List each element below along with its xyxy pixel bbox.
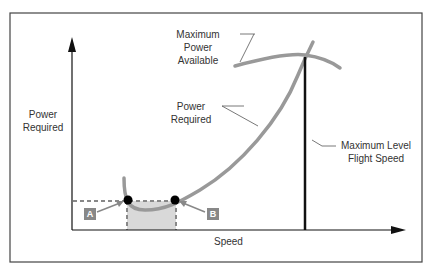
max-power-label-line1: Maximum (158, 28, 238, 41)
power-required-label-line2: Required (160, 113, 222, 126)
leader-max-power-diag (240, 34, 254, 62)
arrow-a-line (97, 203, 120, 212)
power-available-curve (235, 55, 340, 68)
power-required-label: Power Required (160, 100, 222, 126)
leader-max-level (312, 140, 322, 146)
max-power-label: Maximum Power Available (158, 28, 238, 67)
x-axis-label: Speed (214, 235, 264, 248)
point-a (124, 196, 133, 205)
y-axis-label-line1: Power (20, 108, 66, 121)
point-b-tag: B (207, 208, 219, 220)
arrow-b-line (183, 203, 205, 212)
max-power-label-line2: Power (158, 41, 238, 54)
x-axis-arrow-icon (391, 226, 406, 234)
point-b (171, 196, 180, 205)
power-required-curve (124, 42, 313, 210)
point-a-tag: A (84, 208, 96, 220)
power-required-label-line1: Power (160, 100, 222, 113)
leader-power-required-diag (222, 106, 258, 126)
y-axis-label-line2: Required (20, 121, 66, 134)
y-axis-label: Power Required (20, 108, 66, 134)
max-level-label-line2: Flight Speed (336, 152, 416, 165)
max-power-label-line3: Available (158, 54, 238, 67)
y-axis-arrow-icon (68, 37, 76, 52)
max-level-label: Maximum Level Flight Speed (336, 139, 416, 165)
max-level-label-line1: Maximum Level (336, 139, 416, 152)
